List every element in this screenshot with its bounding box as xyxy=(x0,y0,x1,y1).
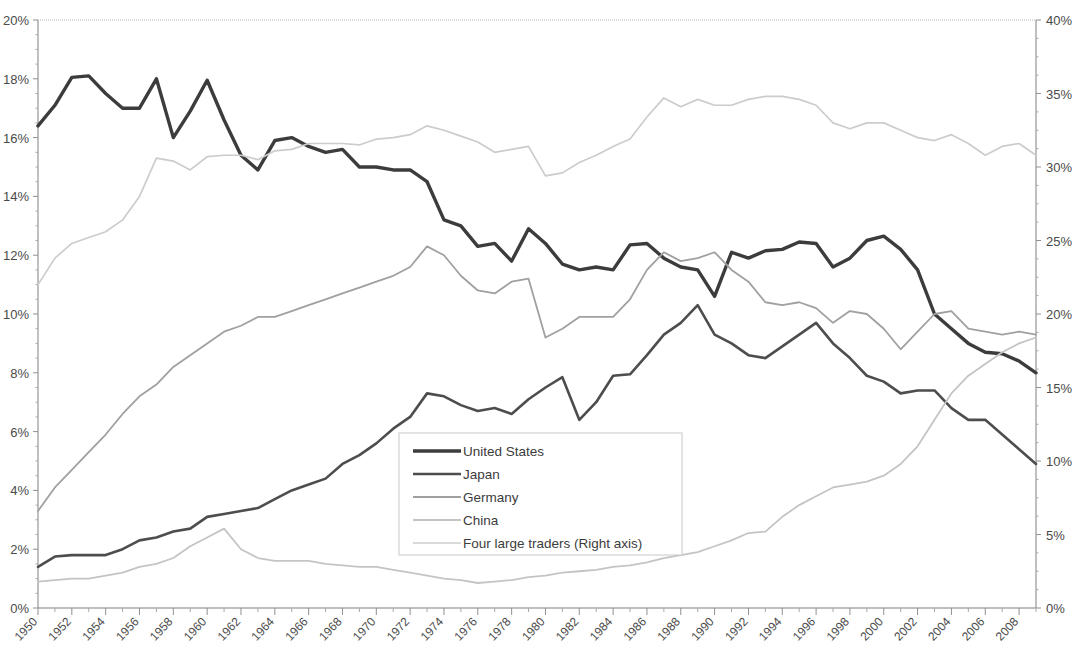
x-axis-tick-label: 2006 xyxy=(959,614,988,643)
legend-label-4: China xyxy=(463,513,499,528)
x-axis-tick-label: 1994 xyxy=(756,614,785,643)
x-axis-tick-label: 1970 xyxy=(350,614,379,643)
y-axis-left-tick-label: 2% xyxy=(10,542,29,557)
y-axis-right-tick-label: 5% xyxy=(1046,528,1065,543)
x-axis-tick-label: 1972 xyxy=(384,614,413,643)
x-axis-tick-label: 1990 xyxy=(688,614,717,643)
x-axis-tick-label: 1952 xyxy=(46,614,75,643)
x-axis-tick-label: 1980 xyxy=(519,614,548,643)
y-axis-left-tick-label: 18% xyxy=(3,72,29,87)
y-axis-left-tick-label: 6% xyxy=(10,425,29,440)
y-axis-left-tick-label: 10% xyxy=(3,307,29,322)
y-axis-left-tick-label: 4% xyxy=(10,483,29,498)
chart-container: 0%2%4%6%8%10%12%14%16%18%20% 0%5%10%15%2… xyxy=(0,0,1082,666)
series-line-united-states xyxy=(38,76,1036,373)
x-axis-tick-label: 1978 xyxy=(485,614,514,643)
chart-legend: United StatesJapanGermanyChinaFour large… xyxy=(399,433,682,555)
y-axis-right-tick-label: 25% xyxy=(1046,234,1072,249)
x-axis-tick-label: 2008 xyxy=(993,614,1022,643)
x-axis-tick-label: 2000 xyxy=(858,614,887,643)
x-axis-tick-label: 1960 xyxy=(181,614,210,643)
y-axis-left-tick-label: 20% xyxy=(3,13,29,28)
x-axis-tick-label: 1958 xyxy=(147,614,176,643)
x-axis-tick-label: 1998 xyxy=(824,614,853,643)
x-axis-tick-label: 1950 xyxy=(12,614,41,643)
y-axis-right: 0%5%10%15%20%25%30%35%40% xyxy=(1036,13,1072,616)
y-axis-right-tick-label: 20% xyxy=(1046,307,1072,322)
x-axis-tick-label: 1982 xyxy=(553,614,582,643)
x-axis-tick-label: 1988 xyxy=(655,614,684,643)
x-axis-tick-label: 1986 xyxy=(621,614,650,643)
y-axis-right-tick-label: 30% xyxy=(1046,160,1072,175)
y-axis-right-tick-label: 0% xyxy=(1046,601,1065,616)
legend-label-1: United States xyxy=(463,444,544,459)
x-axis-tick-label: 2002 xyxy=(891,614,920,643)
line-chart: 0%2%4%6%8%10%12%14%16%18%20% 0%5%10%15%2… xyxy=(0,0,1082,666)
x-axis-tick-label: 1954 xyxy=(79,614,108,643)
y-axis-right-tick-label: 35% xyxy=(1046,87,1072,102)
x-axis: 1950195219541956195819601962196419661968… xyxy=(12,608,1036,644)
x-axis-tick-label: 1996 xyxy=(790,614,819,643)
y-axis-left-tick-label: 0% xyxy=(10,601,29,616)
y-axis-left-tick-label: 14% xyxy=(3,189,29,204)
x-axis-tick-label: 1984 xyxy=(587,614,616,643)
y-axis-left-tick-label: 12% xyxy=(3,248,29,263)
y-axis-right-tick-label: 10% xyxy=(1046,454,1072,469)
x-axis-tick-label: 1964 xyxy=(249,614,278,643)
legend-label-2: Japan xyxy=(463,467,500,482)
y-axis-right-tick-label: 15% xyxy=(1046,381,1072,396)
legend-label-5: Four large traders (Right axis) xyxy=(463,536,642,551)
y-axis-right-tick-label: 40% xyxy=(1046,13,1072,28)
x-axis-tick-label: 1992 xyxy=(722,614,751,643)
series-line-four-large-traders xyxy=(38,96,1036,284)
x-axis-tick-label: 1974 xyxy=(418,614,447,643)
legend-label-3: Germany xyxy=(463,490,519,505)
x-axis-tick-label: 1956 xyxy=(113,614,142,643)
x-axis-tick-label: 1966 xyxy=(282,614,311,643)
x-axis-tick-label: 1976 xyxy=(452,614,481,643)
x-axis-tick-label: 1968 xyxy=(316,614,345,643)
y-axis-left-tick-label: 8% xyxy=(10,366,29,381)
x-axis-tick-label: 2004 xyxy=(925,614,954,643)
y-axis-left-tick-label: 16% xyxy=(3,131,29,146)
x-axis-tick-label: 1962 xyxy=(215,614,244,643)
